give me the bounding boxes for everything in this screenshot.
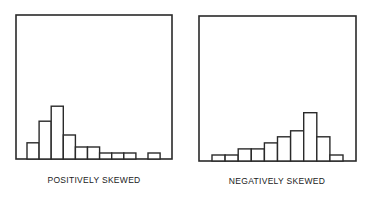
- positively-skewed-bar-11: [148, 153, 160, 159]
- negatively-skewed-label: NEGATIVELY SKEWED: [229, 176, 325, 186]
- negatively-skewed-bar-5: [264, 143, 277, 161]
- skewness-histograms: POSITIVELY SKEWED NEGATIVELY SKEWED: [0, 0, 368, 198]
- negatively-skewed-bar-6: [278, 137, 291, 161]
- positively-skewed-bar-5: [75, 147, 87, 159]
- negatively-skewed-bar-4: [251, 149, 264, 161]
- positively-skewed-bar-7: [100, 153, 112, 159]
- positively-skewed-panel: POSITIVELY SKEWED: [16, 15, 172, 185]
- positively-skewed-bar-9: [124, 153, 136, 159]
- positively-skewed-bar-1: [27, 143, 39, 159]
- positively-skewed-label: POSITIVELY SKEWED: [47, 175, 140, 185]
- positively-skewed-bars: [27, 106, 160, 159]
- negatively-skewed-panel: NEGATIVELY SKEWED: [199, 16, 356, 186]
- negatively-skewed-bar-7: [291, 131, 304, 161]
- positively-skewed-bar-6: [88, 147, 100, 159]
- positively-skewed-bar-2: [39, 121, 51, 159]
- positively-skewed-bar-4: [63, 135, 75, 159]
- negatively-skewed-bar-1: [212, 155, 225, 161]
- negatively-skewed-bar-2: [225, 155, 238, 161]
- negatively-skewed-bar-3: [238, 149, 251, 161]
- negatively-skewed-bar-9: [317, 137, 330, 161]
- positively-skewed-bar-3: [51, 106, 63, 159]
- positively-skewed-bar-8: [112, 153, 124, 159]
- negatively-skewed-bar-8: [304, 113, 317, 161]
- negatively-skewed-bar-10: [330, 155, 343, 161]
- negatively-skewed-bars: [212, 113, 343, 161]
